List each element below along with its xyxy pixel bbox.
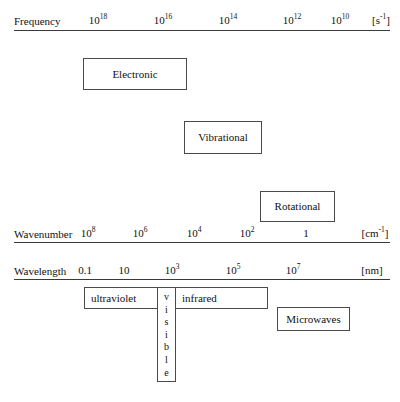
frequency-tick-4: 1010 <box>331 14 350 26</box>
wavenumber-tick-3-mantissa: 10 <box>240 227 251 239</box>
wavenumber-tick-4: 1 <box>303 227 309 239</box>
spectral-region-ultraviolet: ultraviolet <box>84 287 158 309</box>
wavenumber-tick-4-mantissa: 1 <box>303 227 309 239</box>
wavenumber-tick-1: 106 <box>133 227 148 239</box>
wavelength-tick-4-exponent: 7 <box>297 262 301 271</box>
visible-letter-3: i <box>165 329 168 342</box>
visible-letter-6: e <box>164 367 168 380</box>
wavelength-tick-4: 107 <box>286 264 301 276</box>
spectral-region-visible: v i s i b l e <box>157 287 176 382</box>
frequency-unit-label: [s-1] <box>372 14 390 26</box>
wavelength-tick-0: 0.1 <box>78 264 92 276</box>
visible-letter-2: s <box>165 316 169 329</box>
frequency-tick-0-mantissa: 10 <box>89 14 100 26</box>
visible-letter-5: l <box>165 354 168 367</box>
wavelength-tick-4-mantissa: 10 <box>286 264 297 276</box>
frequency-tick-3: 1012 <box>283 14 302 26</box>
frequency-tick-2: 1014 <box>219 14 238 26</box>
wavenumber-unit-label: [cm-1] <box>361 227 388 239</box>
wavelength-tick-0-mantissa: 0.1 <box>78 264 92 276</box>
wavenumber-tick-1-exponent: 6 <box>144 225 148 234</box>
spectral-region-infrared: infrared <box>175 287 268 309</box>
wavelength-tick-2-mantissa: 10 <box>165 264 176 276</box>
excitation-box-electronic-label: Electronic <box>112 68 157 81</box>
wavenumber-axis-line <box>14 242 390 243</box>
frequency-axis-line <box>14 30 390 31</box>
wavelength-tick-3-mantissa: 10 <box>226 264 237 276</box>
frequency-tick-4-mantissa: 10 <box>331 14 342 26</box>
wavelength-axis-name: Wavelength <box>14 265 66 277</box>
frequency-tick-3-exponent: 12 <box>294 12 302 21</box>
wavelength-unit-label: [nm] <box>361 264 382 276</box>
spectral-region-microwaves: Microwaves <box>277 307 350 331</box>
frequency-tick-3-mantissa: 10 <box>283 14 294 26</box>
wavenumber-unit-exponent: -1 <box>379 225 385 234</box>
excitation-box-electronic: Electronic <box>83 58 187 90</box>
wavenumber-tick-2-mantissa: 10 <box>187 227 198 239</box>
excitation-box-rotational: Rotational <box>260 191 335 222</box>
wavenumber-tick-0-exponent: 8 <box>92 225 96 234</box>
wavenumber-tick-3-exponent: 2 <box>251 225 255 234</box>
frequency-tick-4-exponent: 10 <box>342 12 350 21</box>
wavelength-tick-2: 103 <box>165 264 180 276</box>
wavelength-axis-line <box>14 279 390 280</box>
visible-letter-0: v <box>164 291 169 304</box>
spectrum-diagram: Frequency 1018 1016 1014 1012 1010 [s-1]… <box>0 0 400 402</box>
excitation-box-vibrational-label: Vibrational <box>198 131 247 144</box>
wavenumber-tick-0: 108 <box>81 227 96 239</box>
frequency-tick-1-mantissa: 10 <box>154 14 165 26</box>
wavelength-tick-3: 105 <box>226 264 241 276</box>
spectral-region-infrared-label: infrared <box>182 292 217 305</box>
excitation-box-vibrational: Vibrational <box>184 121 262 154</box>
excitation-box-rotational-label: Rotational <box>275 200 321 213</box>
frequency-tick-2-mantissa: 10 <box>219 14 230 26</box>
wavelength-tick-1-mantissa: 10 <box>119 264 130 276</box>
spectral-region-microwaves-label: Microwaves <box>286 313 340 326</box>
frequency-tick-1-exponent: 16 <box>165 12 173 21</box>
wavenumber-tick-2-exponent: 4 <box>198 225 202 234</box>
wavenumber-tick-1-mantissa: 10 <box>133 227 144 239</box>
spectral-region-ultraviolet-label: ultraviolet <box>91 292 136 305</box>
wavelength-tick-2-exponent: 3 <box>176 262 180 271</box>
wavelength-tick-3-exponent: 5 <box>237 262 241 271</box>
wavelength-unit-text: nm <box>365 264 379 276</box>
wavenumber-tick-0-mantissa: 10 <box>81 227 92 239</box>
wavenumber-axis-name: Wavenumber <box>14 228 72 240</box>
frequency-axis-name: Frequency <box>14 15 60 27</box>
visible-letter-4: b <box>164 341 169 354</box>
frequency-tick-0-exponent: 18 <box>100 12 108 21</box>
frequency-tick-0: 1018 <box>89 14 108 26</box>
wavenumber-unit-text: cm <box>365 227 378 239</box>
visible-letter-1: i <box>165 304 168 317</box>
wavenumber-tick-2: 104 <box>187 227 202 239</box>
frequency-tick-2-exponent: 14 <box>230 12 238 21</box>
frequency-tick-1: 1016 <box>154 14 173 26</box>
wavenumber-tick-3: 102 <box>240 227 255 239</box>
frequency-unit-exponent: -1 <box>380 12 386 21</box>
wavelength-tick-1: 10 <box>119 264 130 276</box>
